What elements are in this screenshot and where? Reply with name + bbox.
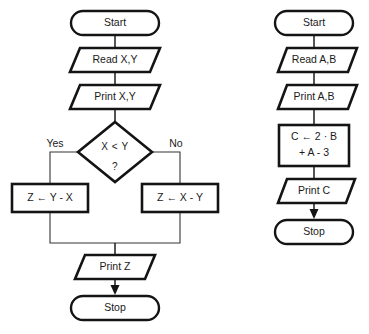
left-branch-label-yes: Yes: [46, 137, 63, 149]
right-stop-label: Stop: [303, 225, 325, 237]
connector-merge-branches: [50, 212, 180, 243]
left-assign-no-node: Z ← X - Y: [142, 184, 218, 212]
right-flowchart: Start Read A,B Print A,B C ← 2 · B + A -…: [275, 11, 357, 244]
connector-decision-yes: [50, 152, 78, 184]
left-start-node: Start: [71, 11, 159, 35]
left-print-result-node: Print Z: [75, 255, 155, 279]
left-decision-node: X < Y ?: [78, 122, 152, 182]
right-read-node: Read A,B: [278, 48, 357, 72]
right-print-inputs-label: Print A,B: [294, 90, 335, 102]
left-stop-node: Stop: [71, 296, 159, 320]
right-print-result-node: Print C: [278, 179, 355, 203]
left-print-result-label: Print Z: [100, 260, 132, 272]
right-assign-node: C ← 2 · B + A - 3: [279, 125, 349, 166]
right-print-inputs-node: Print A,B: [278, 85, 357, 109]
arrowhead-icon: [111, 285, 120, 295]
connector-decision-no: [152, 152, 180, 184]
right-stop-node: Stop: [275, 220, 353, 244]
right-assign-label-line1: C ← 2 · B: [291, 130, 337, 142]
left-decision-label-question: ?: [112, 161, 118, 172]
right-start-label: Start: [303, 16, 325, 28]
left-stop-label: Stop: [104, 301, 126, 313]
right-assign-label-line2: + A - 3: [299, 146, 329, 158]
left-read-node: Read X,Y: [70, 48, 160, 72]
left-branch-label-no: No: [169, 137, 183, 149]
right-start-node: Start: [275, 11, 353, 35]
left-flowchart: Start Read X,Y Print X,Y X < Y ? Yes No: [12, 11, 218, 320]
left-assign-yes-label: Z ← Y - X: [27, 191, 73, 203]
decision-diamond-shape: [78, 122, 152, 182]
left-assign-yes-node: Z ← Y - X: [12, 184, 88, 212]
right-print-result-label: Print C: [298, 184, 331, 196]
left-assign-no-label: Z ← X - Y: [157, 191, 203, 203]
left-start-label: Start: [104, 16, 126, 28]
left-decision-label-condition: X < Y: [101, 141, 129, 152]
left-print-inputs-node: Print X,Y: [70, 85, 160, 109]
flowchart-diagram: Start Read X,Y Print X,Y X < Y ? Yes No: [0, 0, 369, 334]
left-print-inputs-label: Print X,Y: [94, 90, 135, 102]
arrowhead-icon: [310, 209, 319, 219]
left-read-label: Read X,Y: [93, 53, 138, 65]
right-read-label: Read A,B: [292, 53, 336, 65]
